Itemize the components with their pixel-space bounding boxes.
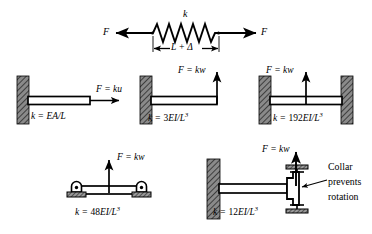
collar-annotation-line-3: rotation: [328, 192, 358, 202]
case-simply-supported: [67, 160, 151, 197]
force-label-simply-supported: F = kw: [117, 153, 145, 163]
force-label-cantilever: F = kw: [178, 66, 206, 76]
force-label-axial: F = ku: [96, 85, 122, 95]
spring-stiffness-figure: k F F L + Δ F = ku k = EA/L F = kw k = 3…: [0, 0, 372, 234]
beam-cantilever: [151, 97, 217, 105]
spring-force-left-label: F: [103, 27, 109, 37]
stiffness-label-simply-supported: k = 48EI/L3: [75, 206, 120, 218]
spring-right-node: [217, 32, 220, 35]
beam-guided: [219, 184, 287, 193]
collar-guide-bottom: [286, 205, 308, 213]
stiffness-label-guided: k = 12EI/L3: [213, 206, 258, 218]
spring-stiffness-label: k: [183, 9, 187, 19]
spring-dimension-label: L + Δ: [171, 43, 193, 53]
collar-annotation-line-1: Collar: [328, 162, 353, 172]
spring-coil: [153, 24, 219, 42]
force-label-fixed-fixed: F = kw: [266, 66, 294, 76]
collar-guide-top: [286, 165, 308, 172]
spring-force-right-label: F: [261, 27, 267, 37]
stiffness-label-cantilever: k = 3EI/L3: [148, 112, 188, 124]
force-label-guided: F = kw: [262, 145, 290, 155]
stiffness-label-axial: k = EA/L: [31, 112, 66, 122]
stiffness-label-fixed-fixed: k = 192EI/L3: [273, 112, 323, 124]
spring-left-node: [151, 32, 154, 35]
bar-axial: [28, 97, 90, 105]
collar-annotation-line-2: prevents: [328, 177, 361, 187]
collar-leader-line: [302, 180, 327, 187]
collar-block: [287, 172, 299, 205]
